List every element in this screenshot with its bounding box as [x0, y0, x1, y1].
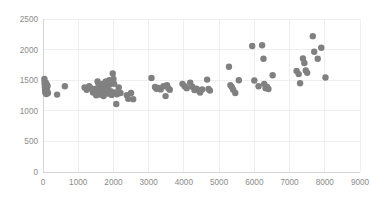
- data-point: [44, 83, 50, 89]
- data-point: [204, 76, 210, 82]
- x-tick-label: 0: [41, 178, 46, 187]
- data-point: [113, 101, 119, 107]
- data-point: [249, 43, 255, 49]
- data-point: [310, 33, 316, 39]
- x-tick-label: 9000: [351, 178, 370, 187]
- x-tick-label: 4000: [175, 178, 194, 187]
- data-point: [311, 49, 317, 55]
- y-tick-label: 1500: [20, 76, 39, 85]
- y-tick-label: 2000: [20, 46, 39, 55]
- data-point: [167, 86, 173, 92]
- x-tick-label: 2000: [104, 178, 123, 187]
- data-point: [45, 90, 51, 96]
- data-point: [259, 42, 265, 48]
- data-point: [322, 74, 328, 80]
- chart-background: [0, 0, 371, 197]
- data-point: [269, 72, 275, 78]
- x-tick-label: 7000: [280, 178, 299, 187]
- data-point: [260, 56, 266, 62]
- data-point: [251, 77, 257, 83]
- x-tick-label: 3000: [140, 178, 159, 187]
- data-point: [128, 90, 134, 96]
- data-point: [315, 56, 321, 62]
- x-tick-label: 5000: [210, 178, 229, 187]
- data-point: [130, 96, 136, 102]
- data-point: [232, 90, 238, 96]
- data-point: [297, 80, 303, 86]
- y-tick-label: 1000: [20, 107, 39, 116]
- y-tick-label: 0: [33, 168, 38, 177]
- data-point: [304, 70, 310, 76]
- x-tick-label: 6000: [245, 178, 264, 187]
- data-point: [116, 84, 122, 90]
- data-point: [236, 77, 242, 83]
- scatter-chart: 05001000150020002500 0100020003000400050…: [0, 0, 371, 197]
- data-point: [296, 71, 302, 77]
- data-point: [54, 91, 60, 97]
- data-point: [184, 85, 190, 91]
- y-tick-label: 500: [24, 137, 38, 146]
- data-point: [318, 45, 324, 51]
- data-point: [226, 64, 232, 70]
- data-point: [117, 90, 123, 96]
- data-point: [162, 93, 168, 99]
- x-tick-label: 1000: [69, 178, 88, 187]
- data-point: [110, 70, 116, 76]
- data-point: [148, 75, 154, 81]
- data-point: [199, 86, 205, 92]
- data-point: [207, 87, 213, 93]
- data-point: [265, 86, 271, 92]
- x-tick-label: 8000: [316, 178, 335, 187]
- data-point: [301, 60, 307, 66]
- data-point: [62, 83, 68, 89]
- chart-page: 05001000150020002500 0100020003000400050…: [0, 0, 371, 197]
- data-point: [255, 83, 261, 89]
- y-tick-label: 2500: [20, 15, 39, 24]
